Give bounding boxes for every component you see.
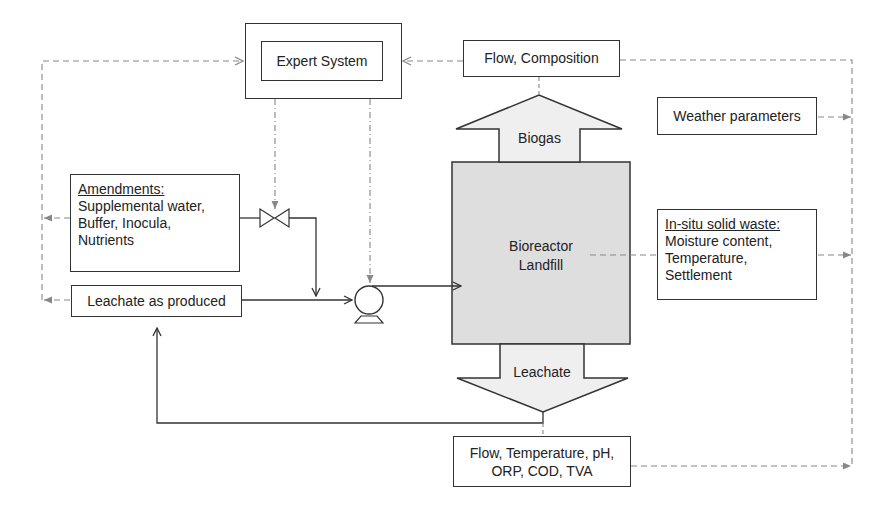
amendments-title: Amendments: bbox=[78, 181, 232, 198]
in-situ-line: Temperature, bbox=[665, 250, 809, 267]
bioreactor-label: Bioreactor Landfill bbox=[452, 237, 630, 275]
control-valve-icon[interactable] bbox=[260, 209, 289, 227]
leachate-params-line: ORP, COD, TVA bbox=[491, 462, 592, 480]
leachate-as-produced-label: Leachate as produced bbox=[87, 293, 226, 310]
biogas-arrow bbox=[456, 95, 622, 162]
expert-system-label: Expert System bbox=[276, 53, 367, 70]
flow-composition-box[interactable]: Flow, Composition bbox=[463, 40, 620, 77]
weather-parameters-label: Weather parameters bbox=[673, 108, 800, 125]
pump-icon[interactable] bbox=[355, 286, 383, 323]
leachate-label: Leachate bbox=[500, 364, 584, 380]
in-situ-line: Moisture content, bbox=[665, 233, 809, 250]
in-situ-title: In-situ solid waste: bbox=[665, 216, 809, 233]
flow-composition-label: Flow, Composition bbox=[484, 50, 598, 67]
amendments-line: Supplemental water, bbox=[78, 198, 232, 215]
leachate-params-line: Flow, Temperature, pH, bbox=[470, 444, 614, 462]
amendments-line: Buffer, Inocula, bbox=[78, 215, 232, 232]
bioreactor-label-line1: Bioreactor bbox=[452, 237, 630, 256]
amendments-box[interactable]: Amendments: Supplemental water, Buffer, … bbox=[70, 174, 240, 272]
in-situ-line: Settlement bbox=[665, 267, 809, 284]
valve-to-junction-line bbox=[289, 218, 316, 296]
bioreactor-label-line2: Landfill bbox=[452, 256, 630, 275]
biogas-label: Biogas bbox=[499, 130, 580, 146]
weather-parameters-box[interactable]: Weather parameters bbox=[657, 97, 817, 135]
leachate-parameters-box[interactable]: Flow, Temperature, pH, ORP, COD, TVA bbox=[453, 436, 631, 487]
expert-system-box[interactable]: Expert System bbox=[261, 41, 383, 81]
in-situ-solid-waste-box[interactable]: In-situ solid waste: Moisture content, T… bbox=[657, 209, 817, 300]
leachate-as-produced-box[interactable]: Leachate as produced bbox=[71, 285, 242, 317]
amendments-line: Nutrients bbox=[78, 232, 232, 249]
